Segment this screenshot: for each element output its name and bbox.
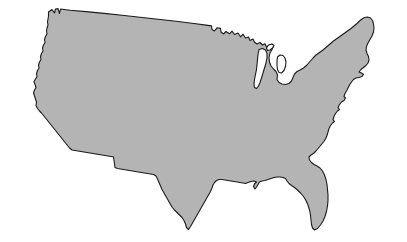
lake-huron-bay-shape — [277, 55, 286, 73]
map-canvas: Outline map of the contiguous United Sta… — [0, 0, 407, 242]
united-states-map-svg: Outline map of the contiguous United Sta… — [0, 0, 407, 242]
